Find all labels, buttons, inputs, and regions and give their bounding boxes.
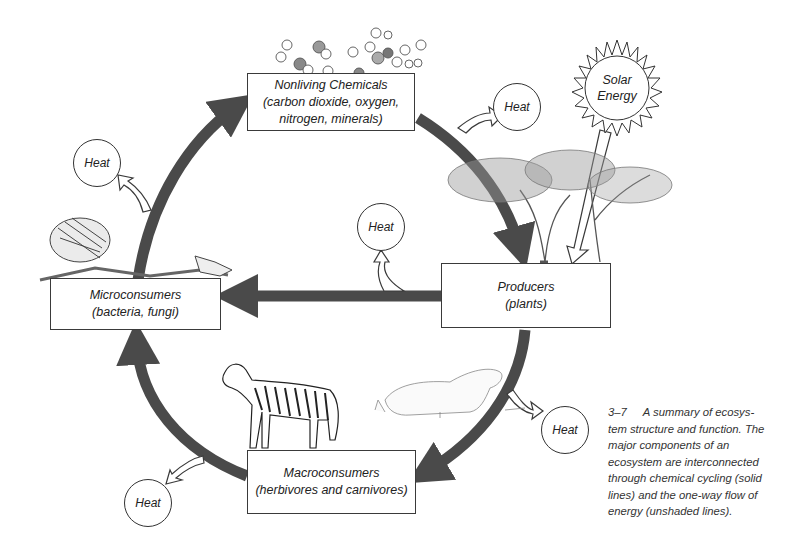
- acacia-trees-illustration: [448, 150, 672, 268]
- heat-label: Heat: [135, 496, 160, 510]
- macroconsumers-line2: (herbivores and carnivores): [255, 482, 407, 499]
- nonliving-line3: nitrogen, minerals): [279, 111, 383, 128]
- heat-node-center: Heat: [357, 203, 405, 251]
- caption-line: ecosystem are interconnected: [608, 454, 798, 471]
- arrow-heat-4: [507, 390, 543, 419]
- figure-caption: 3–7A summary of ecosys- tem structure an…: [608, 404, 798, 520]
- producers-title: Producers: [498, 279, 555, 296]
- microconsumers-line2: (bacteria, fungi): [92, 304, 179, 321]
- caption-line: lines) and the one-way flow of: [608, 487, 798, 504]
- macroconsumers-title: Macroconsumers: [284, 465, 380, 482]
- zebra-illustration: [223, 364, 338, 448]
- nonliving-title: Nonliving Chemicals: [274, 77, 387, 94]
- heat-node-top: Heat: [493, 83, 541, 131]
- heat-node-bottom: Heat: [124, 479, 172, 527]
- nonliving-line2: (carbon dioxide, oxygen,: [263, 94, 399, 111]
- heat-node-left: Heat: [73, 139, 121, 187]
- arrow-macroconsumers-to-microconsumers: [137, 343, 247, 476]
- solar-energy-label: Solar Energy: [585, 72, 649, 104]
- node-producers: Producers (plants): [441, 263, 611, 328]
- arrow-heat-3: [374, 250, 404, 291]
- figure-number: 3–7: [608, 406, 627, 418]
- node-nonliving-chemicals: Nonliving Chemicals (carbon dioxide, oxy…: [247, 73, 415, 131]
- solar-line1: Solar: [585, 72, 649, 88]
- caption-line: 3–7A summary of ecosys-: [608, 404, 798, 421]
- caption-line: energy (unshaded lines).: [608, 503, 798, 520]
- producers-line2: (plants): [505, 296, 547, 313]
- arrow-heat-5: [166, 456, 204, 484]
- heat-label: Heat: [504, 100, 529, 114]
- heat-label: Heat: [84, 156, 109, 170]
- solar-line2: Energy: [585, 88, 649, 104]
- heat-label: Heat: [552, 423, 577, 437]
- caption-text: A summary of ecosys-: [643, 406, 754, 418]
- heat-node-right: Heat: [541, 406, 589, 454]
- node-microconsumers: Microconsumers (bacteria, fungi): [50, 278, 221, 330]
- caption-line: through chemical cycling (solid: [608, 470, 798, 487]
- caption-line: tem structure and function. The: [608, 421, 798, 438]
- heat-label: Heat: [368, 220, 393, 234]
- node-macroconsumers: Macroconsumers (herbivores and carnivore…: [247, 450, 416, 514]
- arrow-heat-2: [118, 175, 151, 212]
- microconsumers-title: Microconsumers: [90, 287, 182, 304]
- caption-line: major components of an: [608, 437, 798, 454]
- arrow-microconsumers-to-nonliving: [138, 107, 236, 280]
